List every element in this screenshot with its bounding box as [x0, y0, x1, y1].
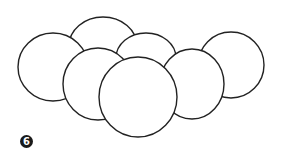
front-circle	[99, 57, 177, 137]
step-number-badge: 6	[20, 135, 33, 148]
circles-drawing	[0, 0, 282, 155]
